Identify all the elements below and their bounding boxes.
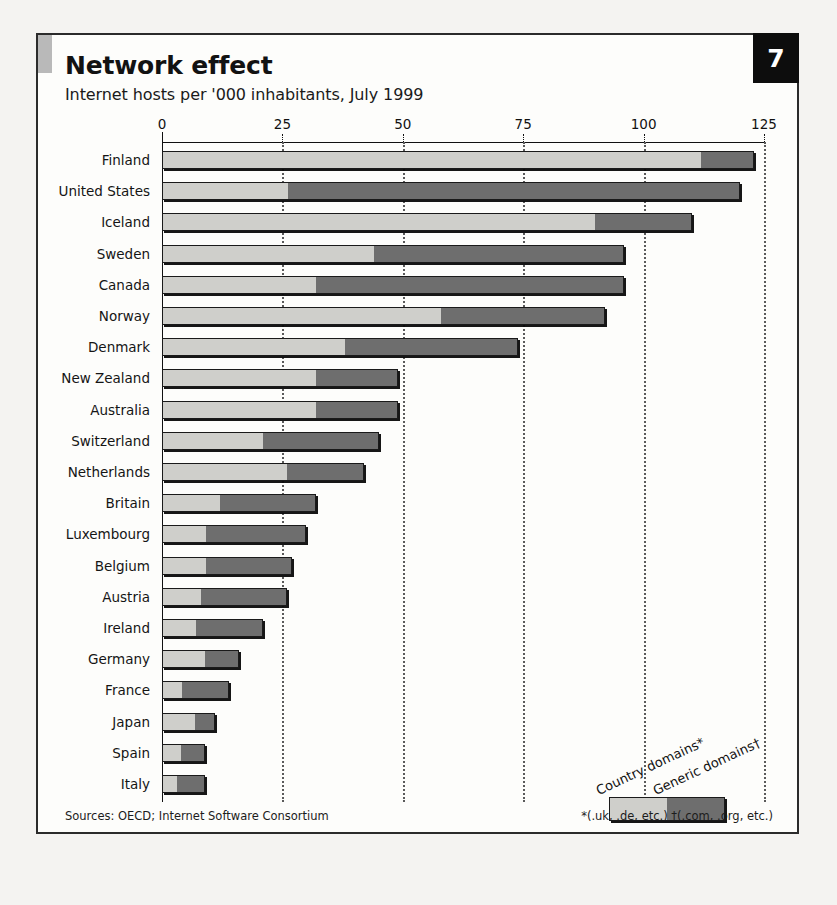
bar-row[interactable]: Japan (38, 709, 797, 735)
stacked-bar[interactable] (162, 494, 316, 512)
bar-segment-country-domains (163, 682, 182, 698)
bar-row-label: Switzerland (40, 428, 150, 454)
bar-row-label: Finland (40, 147, 150, 173)
stacked-bar[interactable] (162, 276, 624, 294)
bar-segment-country-domains (163, 745, 181, 761)
bar-row[interactable]: Iceland (38, 209, 797, 235)
stacked-bar[interactable] (162, 713, 215, 731)
bar-segment-generic-domains (206, 558, 291, 574)
stacked-bar[interactable] (162, 588, 287, 606)
bar-segment-country-domains (163, 464, 287, 480)
bar-segment-country-domains (163, 651, 205, 667)
bar-segment-country-domains (163, 526, 206, 542)
bar-segment-generic-domains (196, 620, 262, 636)
bar-row[interactable]: Ireland (38, 615, 797, 641)
bar-segment-generic-domains (201, 589, 286, 605)
bar-row-label: Belgium (40, 553, 150, 579)
bar-row-label: France (40, 677, 150, 703)
bar-segment-generic-domains (263, 433, 378, 449)
bar-row-label: Britain (40, 490, 150, 516)
stacked-bar[interactable] (162, 213, 692, 231)
bar-row-label: Norway (40, 303, 150, 329)
bar-row[interactable]: Austria (38, 584, 797, 610)
bar-row-label: Italy (40, 771, 150, 797)
bar-row-label: Australia (40, 397, 150, 423)
bar-segment-country-domains (163, 308, 441, 324)
bar-segment-generic-domains (441, 308, 604, 324)
stacked-bar[interactable] (162, 245, 624, 263)
bar-segment-country-domains (163, 620, 196, 636)
bar-segment-country-domains (163, 183, 288, 199)
bar-row[interactable]: Spain (38, 740, 797, 766)
stacked-bar[interactable] (162, 650, 239, 668)
bar-segment-generic-domains (701, 152, 754, 168)
bar-segment-country-domains (163, 558, 206, 574)
bar-segment-generic-domains (288, 183, 739, 199)
bar-segment-generic-domains (316, 277, 623, 293)
bar-row[interactable]: Belgium (38, 553, 797, 579)
bar-segment-country-domains (163, 433, 263, 449)
stacked-bar[interactable] (162, 744, 205, 762)
bar-row-label: Sweden (40, 241, 150, 267)
bar-row[interactable]: Australia (38, 397, 797, 423)
bar-segment-generic-domains (316, 402, 397, 418)
bar-segment-country-domains (163, 277, 316, 293)
bar-row[interactable]: Norway (38, 303, 797, 329)
source-note: Sources: OECD; Internet Software Consort… (65, 809, 329, 823)
bar-row-label: United States (40, 178, 150, 204)
bar-row[interactable]: Switzerland (38, 428, 797, 454)
bar-row[interactable]: Sweden (38, 241, 797, 267)
stacked-bar[interactable] (162, 463, 364, 481)
bar-row-label: New Zealand (40, 365, 150, 391)
bar-row-label: Germany (40, 646, 150, 672)
bar-segment-generic-domains (177, 776, 205, 792)
stacked-bar[interactable] (162, 182, 740, 200)
bar-segment-country-domains (163, 339, 345, 355)
bar-row-label: Spain (40, 740, 150, 766)
bar-row[interactable]: Denmark (38, 334, 797, 360)
bar-row[interactable]: Britain (38, 490, 797, 516)
bar-row[interactable]: Luxembourg (38, 521, 797, 547)
bar-row[interactable]: Germany (38, 646, 797, 672)
bar-row[interactable]: Netherlands (38, 459, 797, 485)
figure-page: 7 Network effect Internet hosts per '000… (0, 0, 837, 905)
stacked-bar[interactable] (162, 338, 518, 356)
stacked-bar[interactable] (162, 401, 398, 419)
stacked-bar[interactable] (162, 369, 398, 387)
bar-segment-country-domains (163, 214, 595, 230)
bar-segment-generic-domains (220, 495, 315, 511)
bar-segment-country-domains (163, 152, 701, 168)
bar-segment-generic-domains (205, 651, 238, 667)
stacked-bar[interactable] (162, 432, 379, 450)
bar-row[interactable]: Finland (38, 147, 797, 173)
bar-segment-generic-domains (316, 370, 397, 386)
bar-segment-generic-domains (195, 714, 214, 730)
bar-segment-generic-domains (206, 526, 306, 542)
bar-segment-generic-domains (181, 745, 204, 761)
plot-area: 0255075100125 FinlandUnited StatesIcelan… (38, 35, 797, 832)
bar-row-label: Luxembourg (40, 521, 150, 547)
stacked-bar[interactable] (162, 307, 605, 325)
bar-segment-country-domains (163, 495, 220, 511)
bar-row-label: Netherlands (40, 459, 150, 485)
stacked-bar[interactable] (162, 681, 229, 699)
bar-row[interactable]: France (38, 677, 797, 703)
bar-segment-country-domains (163, 776, 177, 792)
footnote-note: *(.uk, .de, etc.) †(.com, .org, etc.) (581, 809, 773, 823)
bar-row-label: Japan (40, 709, 150, 735)
bar-segment-generic-domains (374, 246, 623, 262)
bar-row-label: Denmark (40, 334, 150, 360)
stacked-bar[interactable] (162, 619, 263, 637)
bar-rows: FinlandUnited StatesIcelandSwedenCanadaN… (38, 35, 797, 832)
bar-segment-country-domains (163, 589, 201, 605)
stacked-bar[interactable] (162, 557, 292, 575)
stacked-bar[interactable] (162, 151, 754, 169)
bar-segment-country-domains (163, 714, 195, 730)
bar-row[interactable]: Canada (38, 272, 797, 298)
bar-row[interactable]: Italy (38, 771, 797, 797)
chart-panel: 7 Network effect Internet hosts per '000… (36, 33, 799, 834)
bar-row[interactable]: United States (38, 178, 797, 204)
stacked-bar[interactable] (162, 525, 306, 543)
stacked-bar[interactable] (162, 775, 205, 793)
bar-row[interactable]: New Zealand (38, 365, 797, 391)
